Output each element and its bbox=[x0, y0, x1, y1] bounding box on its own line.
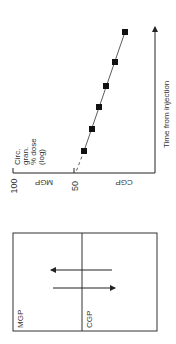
data-point bbox=[122, 29, 128, 35]
tick-label-100: 100 bbox=[9, 178, 19, 193]
data-point bbox=[96, 104, 102, 110]
time-axis-label: Time from injection bbox=[162, 81, 171, 148]
axis-title-line-4: (log) bbox=[37, 149, 46, 165]
box-label-cgp: CGP bbox=[85, 311, 94, 328]
data-point bbox=[81, 148, 87, 154]
axis-region-label-mgp: MGP bbox=[35, 178, 53, 187]
tick-label-50: 50 bbox=[70, 181, 80, 191]
figure: 100 50 MGP CGP Circ. gran. % dose (log) … bbox=[0, 0, 176, 344]
pool-exchange-diagram: MGP CGP bbox=[13, 233, 157, 331]
data-point bbox=[103, 83, 109, 89]
graph: 100 50 MGP CGP Circ. gran. % dose (log) … bbox=[9, 27, 171, 194]
data-point bbox=[112, 59, 118, 65]
regression-line bbox=[84, 32, 125, 151]
extrapolation-line bbox=[76, 151, 84, 172]
y-axis-title: Circ. gran. % dose (log) bbox=[13, 138, 46, 165]
data-point bbox=[89, 126, 95, 132]
box-label-mgp: MGP bbox=[16, 310, 25, 328]
axis-region-label-cgp: CGP bbox=[115, 178, 132, 187]
